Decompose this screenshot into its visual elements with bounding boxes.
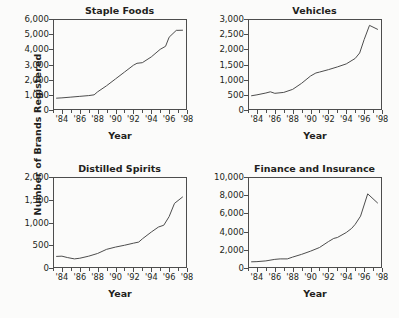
- panel-finance-and-insurance: Finance and Insurance 02,0004,0006,0008,…: [201, 160, 396, 315]
- x-axis-title: Year: [248, 130, 382, 141]
- x-tick-mark-minor: [284, 110, 285, 113]
- x-tick-label: '98: [376, 272, 389, 282]
- x-tick-label: '92: [322, 114, 335, 124]
- y-tick-label: 0: [239, 263, 244, 273]
- y-tick-label: 3,000: [219, 14, 244, 24]
- y-tick-label: 1,500: [24, 195, 49, 205]
- x-tick-label: '84: [56, 272, 69, 282]
- x-tick-label: '88: [286, 272, 299, 282]
- x-axis-title: Year: [248, 288, 382, 299]
- x-tick-label: '86: [268, 114, 281, 124]
- x-tick-label: '90: [109, 272, 122, 282]
- x-tick-label: '84: [251, 114, 264, 124]
- x-tick-mark-minor: [337, 268, 338, 271]
- plot-area: 05001,0001,5002,0002,5003,000'84'86'88'9…: [248, 19, 382, 110]
- x-tick-label: '88: [91, 272, 104, 282]
- y-tick-label: 0: [239, 105, 244, 115]
- y-tick-label: 2,000: [219, 245, 244, 255]
- x-tick-mark-minor: [124, 268, 125, 271]
- y-tick-label: 0: [44, 263, 49, 273]
- y-tick-label: 3,000: [24, 60, 49, 70]
- x-tick-mark-minor: [337, 110, 338, 113]
- panel-title: Vehicles: [241, 5, 388, 16]
- x-tick-mark-minor: [89, 110, 90, 113]
- x-tick-label: '98: [376, 114, 389, 124]
- panel-title: Distilled Spirits: [46, 163, 193, 174]
- y-tick-label: 2,500: [219, 29, 244, 39]
- x-tick-label: '90: [304, 272, 317, 282]
- x-tick-label: '98: [181, 272, 194, 282]
- y-tick-label: 10,000: [214, 172, 244, 182]
- panel-title: Finance and Insurance: [241, 163, 388, 174]
- x-tick-label: '84: [251, 272, 264, 282]
- x-tick-mark-minor: [53, 268, 54, 271]
- plot-area: 02,0004,0006,0008,00010,000'84'86'88'90'…: [248, 177, 382, 268]
- x-tick-mark-minor: [355, 110, 356, 113]
- x-tick-mark-minor: [107, 110, 108, 113]
- x-tick-label: '84: [56, 114, 69, 124]
- x-tick-label: '96: [163, 114, 176, 124]
- x-tick-label: '94: [340, 272, 353, 282]
- x-tick-mark-minor: [142, 110, 143, 113]
- x-tick-mark-minor: [373, 110, 374, 113]
- x-tick-label: '92: [127, 272, 140, 282]
- y-tick-label: 1,000: [24, 218, 49, 228]
- x-tick-mark-minor: [71, 268, 72, 271]
- x-tick-mark-minor: [248, 268, 249, 271]
- x-tick-mark-minor: [266, 110, 267, 113]
- series-line: [53, 177, 187, 268]
- x-tick-mark-minor: [89, 268, 90, 271]
- x-tick-mark-minor: [71, 110, 72, 113]
- x-tick-label: '92: [127, 114, 140, 124]
- x-tick-mark-minor: [373, 268, 374, 271]
- panel-vehicles: Vehicles 05001,0001,5002,0002,5003,000'8…: [201, 2, 396, 157]
- y-tick-label: 4,000: [24, 44, 49, 54]
- x-tick-label: '90: [109, 114, 122, 124]
- x-axis-title: Year: [53, 288, 187, 299]
- x-tick-mark-minor: [160, 110, 161, 113]
- y-tick-label: 500: [228, 90, 244, 100]
- x-tick-mark-minor: [355, 268, 356, 271]
- x-tick-mark-minor: [319, 268, 320, 271]
- panel-title: Staple Foods: [46, 5, 193, 16]
- x-tick-mark-minor: [302, 110, 303, 113]
- x-tick-mark-minor: [302, 268, 303, 271]
- x-tick-label: '90: [304, 114, 317, 124]
- y-tick-label: 1,000: [219, 75, 244, 85]
- x-tick-mark-minor: [319, 110, 320, 113]
- x-tick-mark-minor: [142, 268, 143, 271]
- x-tick-label: '88: [91, 114, 104, 124]
- x-tick-label: '96: [358, 114, 371, 124]
- y-tick-label: 5,000: [24, 29, 49, 39]
- x-tick-label: '94: [145, 114, 158, 124]
- x-tick-label: '96: [163, 272, 176, 282]
- plot-area: 01,0002,0003,0004,0005,0006,000'84'86'88…: [53, 19, 187, 110]
- y-tick-label: 6,000: [219, 208, 244, 218]
- x-tick-mark-minor: [107, 268, 108, 271]
- series-line: [248, 19, 382, 110]
- y-tick-label: 0: [44, 105, 49, 115]
- y-tick-label: 4,000: [219, 227, 244, 237]
- panel-distilled-spirits: Distilled Spirits 05001,0001,5002,000'84…: [6, 160, 201, 315]
- y-tick-label: 8,000: [219, 190, 244, 200]
- x-tick-label: '86: [268, 272, 281, 282]
- y-tick-label: 500: [33, 240, 49, 250]
- x-axis-title: Year: [53, 130, 187, 141]
- y-tick-label: 2,000: [219, 44, 244, 54]
- x-tick-mark-minor: [178, 268, 179, 271]
- x-tick-label: '94: [340, 114, 353, 124]
- x-tick-label: '86: [73, 114, 86, 124]
- x-tick-mark-minor: [53, 110, 54, 113]
- x-tick-mark-minor: [284, 268, 285, 271]
- x-tick-label: '96: [358, 272, 371, 282]
- x-tick-mark-minor: [248, 110, 249, 113]
- chart-figure: Number of Brands Registered Staple Foods…: [0, 0, 399, 318]
- x-tick-label: '94: [145, 272, 158, 282]
- x-tick-mark-minor: [266, 268, 267, 271]
- y-tick-label: 2,000: [24, 172, 49, 182]
- y-tick-label: 6,000: [24, 14, 49, 24]
- y-tick-label: 2,000: [24, 75, 49, 85]
- x-tick-mark-minor: [160, 268, 161, 271]
- y-tick-label: 1,500: [219, 60, 244, 70]
- x-tick-label: '92: [322, 272, 335, 282]
